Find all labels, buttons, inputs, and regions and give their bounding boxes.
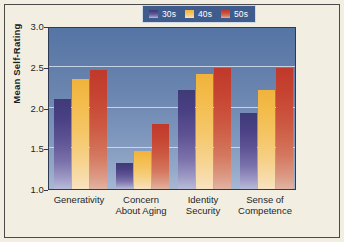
chart-legend: 30s40s50s [142, 5, 256, 23]
legend-swatch-icon [185, 10, 194, 18]
legend-item-40s[interactable]: 40s [185, 9, 212, 19]
x-axis-tick-label: Sense ofCompetence [234, 194, 296, 216]
bar-50s-1 [152, 124, 169, 189]
plot-area [48, 27, 296, 190]
legend-label: 40s [198, 9, 212, 19]
x-axis-tick-label-line: Generativity [48, 194, 110, 205]
bar-50s-2 [214, 68, 231, 189]
x-axis-tick-label: ConcernAbout Aging [110, 194, 172, 216]
x-axis-tick-label-line: About Aging [110, 205, 172, 216]
bar-40s-2 [196, 74, 213, 189]
bar-40s-0 [72, 79, 89, 189]
legend-label: 50s [234, 9, 248, 19]
legend-item-30s[interactable]: 30s [149, 9, 176, 19]
bar-group [178, 28, 231, 189]
bars-layer [49, 28, 295, 189]
bar-50s-0 [90, 70, 107, 189]
x-axis-tick-label: Generativity [48, 194, 110, 205]
legend-swatch-icon [149, 10, 158, 18]
bar-40s-1 [134, 151, 151, 189]
bar-50s-3 [276, 68, 293, 189]
bar-30s-2 [178, 90, 195, 189]
legend-label: 30s [162, 9, 176, 19]
bar-30s-1 [116, 163, 133, 189]
bar-group [116, 28, 169, 189]
y-axis-tick-label: 2.5 [4, 62, 44, 73]
y-axis-tick-label: 1.5 [4, 143, 44, 154]
x-axis-tick-label: IdentitySecurity [172, 194, 234, 216]
legend-item-50s[interactable]: 50s [221, 9, 248, 19]
bar-group [54, 28, 107, 189]
x-axis-tick-label-line: Sense of [234, 194, 296, 205]
bar-30s-0 [54, 99, 71, 189]
bar-30s-3 [240, 113, 257, 189]
y-axis-tick-mark [44, 190, 48, 191]
y-axis-tick-label: 1.0 [4, 184, 44, 195]
y-axis-tick-label: 2.0 [4, 103, 44, 114]
legend-swatch-icon [221, 10, 230, 18]
x-axis-tick-label-line: Competence [234, 205, 296, 216]
x-axis-tick-label-line: Security [172, 205, 234, 216]
bar-40s-3 [258, 90, 275, 189]
bar-group [240, 28, 293, 189]
figure-container: Mean Self-Rating 1.01.52.02.53.0 Generat… [0, 0, 344, 242]
y-axis-tick-label: 3.0 [4, 21, 44, 32]
x-axis-tick-label-line: Concern [110, 194, 172, 205]
x-axis-tick-label-line: Identity [172, 194, 234, 205]
